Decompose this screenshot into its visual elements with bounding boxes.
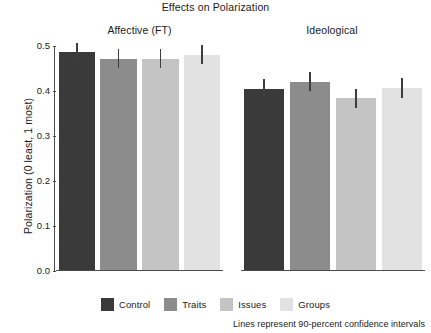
legend-item-control[interactable]: Control bbox=[101, 298, 150, 311]
legend-swatch-icon bbox=[101, 298, 114, 311]
x-axis-line-ideological bbox=[241, 270, 425, 271]
error-bar-issues bbox=[160, 49, 162, 67]
y-tick-label: 0.2 bbox=[37, 175, 50, 187]
y-tick-0.5: 0.5 bbox=[0, 46, 56, 47]
plot-area: 0.00.10.20.30.40.5 bbox=[56, 45, 425, 271]
panel-label-ideological: Ideological bbox=[238, 24, 426, 36]
x-axis-line-affective bbox=[56, 270, 223, 271]
legend-label: Control bbox=[119, 299, 150, 310]
y-tick-0.4: 0.4 bbox=[0, 91, 56, 92]
bar-issues bbox=[336, 98, 376, 270]
panel-label-affective: Affective (FT) bbox=[56, 24, 223, 36]
legend-item-traits[interactable]: Traits bbox=[164, 298, 206, 311]
bar-group-groups bbox=[379, 45, 425, 270]
error-bar-issues bbox=[355, 89, 357, 108]
error-bar-groups bbox=[201, 45, 203, 64]
bar-traits bbox=[100, 59, 137, 271]
error-bar-traits bbox=[309, 72, 311, 91]
y-axis-ticks: 0.00.10.20.30.40.5 bbox=[0, 45, 56, 271]
legend-label: Traits bbox=[182, 299, 206, 310]
y-tick-0.1: 0.1 bbox=[0, 226, 56, 227]
bars-ideological bbox=[241, 45, 425, 270]
legend-item-groups[interactable]: Groups bbox=[280, 298, 330, 311]
legend-swatch-icon bbox=[164, 298, 177, 311]
legend: ControlTraitsIssuesGroups bbox=[0, 298, 431, 311]
bar-traits bbox=[290, 82, 330, 270]
confidence-interval-note: Lines represent 90-percent confidence in… bbox=[233, 319, 425, 329]
bar-issues bbox=[142, 59, 179, 271]
y-tick-0.3: 0.3 bbox=[0, 136, 56, 137]
legend-label: Groups bbox=[298, 299, 330, 310]
bar-group-control bbox=[56, 45, 98, 270]
error-bar-groups bbox=[401, 78, 403, 97]
y-tick-0.2: 0.2 bbox=[0, 181, 56, 182]
bar-groups bbox=[184, 55, 221, 270]
legend-swatch-icon bbox=[220, 298, 233, 311]
y-tick-label: 0.0 bbox=[37, 265, 50, 277]
bar-groups bbox=[382, 88, 422, 270]
y-tick-label: 0.5 bbox=[37, 40, 50, 52]
polarization-bar-chart: Effects on Polarization Affective (FT) I… bbox=[0, 0, 431, 333]
y-tick-0.0: 0.0 bbox=[0, 271, 56, 272]
bar-group-issues bbox=[333, 45, 379, 270]
y-tick-label: 0.1 bbox=[37, 220, 50, 232]
error-bar-traits bbox=[118, 49, 120, 67]
panel-affective bbox=[56, 45, 223, 271]
bar-group-issues bbox=[140, 45, 182, 270]
bar-group-groups bbox=[181, 45, 223, 270]
bar-control bbox=[59, 52, 96, 270]
bar-control bbox=[244, 89, 284, 270]
bar-group-traits bbox=[287, 45, 333, 270]
bar-group-traits bbox=[98, 45, 140, 270]
bar-group-control bbox=[241, 45, 287, 270]
panel-ideological bbox=[241, 45, 425, 271]
y-tick-label: 0.3 bbox=[37, 130, 50, 142]
error-bar-control bbox=[76, 43, 78, 61]
bars-affective bbox=[56, 45, 223, 270]
y-tick-label: 0.4 bbox=[37, 85, 50, 97]
legend-label: Issues bbox=[238, 299, 266, 310]
error-bar-control bbox=[263, 79, 265, 97]
chart-title: Effects on Polarization bbox=[0, 1, 431, 13]
legend-swatch-icon bbox=[280, 298, 293, 311]
legend-item-issues[interactable]: Issues bbox=[220, 298, 266, 311]
